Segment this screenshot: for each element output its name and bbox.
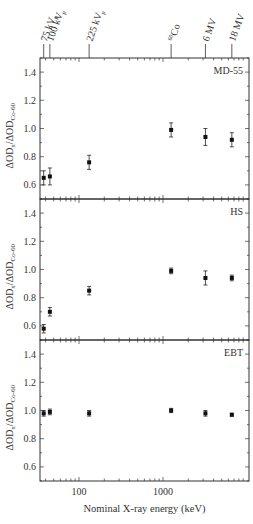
svg-text:18 MV: 18 MV <box>226 11 246 42</box>
top-annotation: 18 MV <box>226 11 246 58</box>
svg-text:6 MV: 6 MV <box>200 16 219 43</box>
top-annotation: 100 kVp <box>44 8 66 58</box>
y-tick-label: 0.6 <box>24 320 37 331</box>
data-point <box>42 171 46 185</box>
top-annotation: 225 kVp <box>84 8 106 58</box>
y-tick-label: 0.6 <box>24 179 37 190</box>
svg-text:225 kVp: 225 kVp <box>84 8 106 43</box>
y-tick-label: 1.2 <box>24 377 37 388</box>
x-tick-label: 100 <box>72 486 87 497</box>
y-tick-label: 1.2 <box>24 236 37 247</box>
data-point <box>203 129 207 146</box>
y-tick-label: 1.4 <box>24 208 37 219</box>
y-tick-label: 1.0 <box>24 123 37 134</box>
data-point <box>230 413 234 417</box>
data-point <box>48 308 52 316</box>
data-point <box>169 123 173 137</box>
data-point <box>87 286 91 294</box>
y-tick-label: 1.0 <box>24 405 37 416</box>
panel-label: EBT <box>224 347 243 358</box>
panel-hs: 0.60.81.01.21.4HSΔODx/ΔODCo-60 <box>4 199 249 340</box>
panel-ebt: 0.60.81.01.21.4EBTΔODx/ΔODCo-60 <box>4 340 249 481</box>
top-annotation: 6 MV <box>200 16 219 58</box>
data-point <box>87 411 91 417</box>
panel-label: HS <box>230 206 243 217</box>
data-point <box>230 133 234 147</box>
chart-figure: 75 kVp100 kVp225 kVp60Co6 MV18 MV0.60.81… <box>0 0 253 524</box>
y-tick-label: 0.8 <box>24 292 37 303</box>
data-point <box>42 411 46 417</box>
panel-md-55: 0.60.81.01.21.4MD-55ΔODx/ΔODCo-60 <box>4 58 249 199</box>
y-axis-label: ΔODx/ΔODCo-60 <box>4 102 17 168</box>
y-axis-label: ΔODx/ΔODCo-60 <box>4 384 17 450</box>
x-tick-label: 1000 <box>153 486 173 497</box>
y-tick-label: 1.4 <box>24 67 37 78</box>
data-point <box>169 408 173 412</box>
top-annotation: 60Co <box>166 22 182 58</box>
x-axis-label: Nominal X-ray energy (keV) <box>84 503 206 515</box>
y-tick-label: 0.8 <box>24 151 37 162</box>
data-point <box>203 411 207 417</box>
panel-label: MD-55 <box>214 65 243 76</box>
y-axis-label: ΔODx/ΔODCo-60 <box>4 243 17 309</box>
data-point <box>48 409 52 415</box>
svg-text:60Co: 60Co <box>166 22 182 42</box>
y-tick-label: 1.4 <box>24 349 37 360</box>
data-point <box>169 268 173 274</box>
data-point <box>230 275 234 281</box>
y-tick-label: 0.6 <box>24 461 37 472</box>
data-point <box>203 271 207 285</box>
y-tick-label: 1.0 <box>24 264 37 275</box>
y-tick-label: 1.2 <box>24 95 37 106</box>
y-tick-label: 0.8 <box>24 433 37 444</box>
data-point <box>48 168 52 185</box>
data-point <box>87 155 91 169</box>
